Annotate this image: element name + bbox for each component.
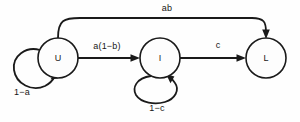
edge-label-c: c bbox=[216, 40, 221, 50]
edge-label-a1minusb: a(1−b) bbox=[93, 41, 120, 51]
edge-u-to-l-path bbox=[58, 18, 266, 38]
edge-i-self-loop: 1−c bbox=[135, 74, 177, 113]
node-l-label: L bbox=[263, 53, 268, 63]
edge-i-to-l: c bbox=[180, 40, 246, 62]
edge-u-to-i-arrowhead bbox=[131, 54, 141, 62]
edge-u-to-l: ab bbox=[58, 3, 270, 39]
edge-i-to-l-arrowhead bbox=[237, 54, 247, 62]
state-transition-diagram: ab a(1−b) c 1−a 1−c U bbox=[0, 0, 300, 122]
edge-label-1minusa: 1−a bbox=[14, 87, 30, 97]
edge-label-1minusc: 1−c bbox=[149, 103, 165, 113]
node-u-label: U bbox=[55, 53, 62, 63]
node-u[interactable]: U bbox=[38, 38, 78, 78]
node-i[interactable]: I bbox=[140, 38, 180, 78]
edge-label-ab: ab bbox=[162, 3, 172, 13]
node-i-label: I bbox=[159, 53, 162, 63]
diagram-canvas: ab a(1−b) c 1−a 1−c U bbox=[0, 0, 300, 122]
node-l[interactable]: L bbox=[246, 38, 286, 78]
edge-u-to-i: a(1−b) bbox=[78, 41, 140, 62]
